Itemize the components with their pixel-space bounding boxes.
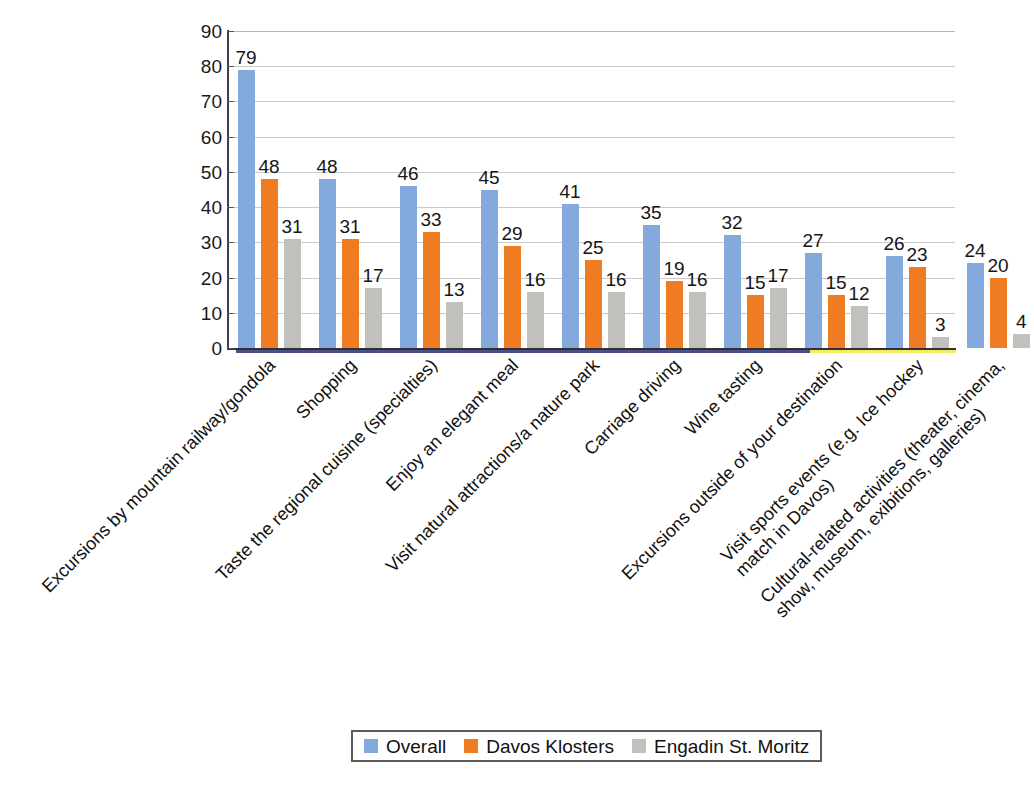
y-axis-tick-mark bbox=[227, 278, 234, 279]
y-axis-tick-mark bbox=[227, 207, 234, 208]
bar-value-label: 26 bbox=[884, 234, 905, 253]
bar-value-label: 35 bbox=[641, 203, 662, 222]
bar-value-label: 13 bbox=[444, 280, 465, 299]
y-axis-tick-mark bbox=[227, 101, 234, 102]
bar[interactable] bbox=[724, 235, 741, 348]
y-axis-tick-mark bbox=[227, 66, 234, 67]
bar-value-label: 46 bbox=[398, 164, 419, 183]
bar[interactable] bbox=[400, 186, 417, 348]
bar[interactable] bbox=[747, 295, 764, 348]
bar[interactable] bbox=[585, 260, 602, 348]
y-axis-tick-label: 0 bbox=[188, 339, 222, 358]
bar[interactable] bbox=[342, 239, 359, 348]
bar-group bbox=[716, 31, 797, 348]
y-axis-tick-mark bbox=[227, 348, 234, 349]
bar-value-label: 4 bbox=[1016, 312, 1027, 331]
bar-value-label: 25 bbox=[583, 238, 604, 257]
y-axis-tick-label: 40 bbox=[188, 198, 222, 217]
y-axis-tick-label: 70 bbox=[188, 92, 222, 111]
bar-group bbox=[959, 31, 1034, 348]
bar[interactable] bbox=[990, 278, 1007, 348]
bar-value-label: 15 bbox=[826, 273, 847, 292]
bar-value-label: 16 bbox=[525, 270, 546, 289]
bar-value-label: 16 bbox=[606, 270, 627, 289]
bar[interactable] bbox=[261, 179, 278, 348]
legend-label: Engadin St. Moritz bbox=[654, 737, 809, 756]
bar[interactable] bbox=[770, 288, 787, 348]
bar[interactable] bbox=[805, 253, 822, 348]
bar[interactable] bbox=[828, 295, 845, 348]
y-axis-tick-label: 20 bbox=[188, 268, 222, 287]
chart-legend: OverallDavos KlostersEngadin St. Moritz bbox=[351, 730, 822, 762]
bar-value-label: 15 bbox=[745, 273, 766, 292]
bar-value-label: 32 bbox=[722, 213, 743, 232]
bar-value-label: 33 bbox=[421, 210, 442, 229]
bar-value-label: 31 bbox=[282, 217, 303, 236]
bar-value-label: 20 bbox=[988, 256, 1009, 275]
bar[interactable] bbox=[504, 246, 521, 348]
bar-value-label: 48 bbox=[317, 157, 338, 176]
bar[interactable] bbox=[851, 306, 868, 348]
bar[interactable] bbox=[1013, 334, 1030, 348]
x-axis-category-label: Shopping bbox=[292, 355, 361, 424]
y-axis-tick-mark bbox=[227, 242, 234, 243]
bar[interactable] bbox=[886, 256, 903, 348]
bar-group bbox=[635, 31, 716, 348]
y-axis-tick-label: 50 bbox=[188, 162, 222, 181]
bar-value-label: 79 bbox=[236, 48, 257, 67]
scan-artifact-navy-line bbox=[236, 350, 814, 353]
y-axis-tick-label: 80 bbox=[188, 57, 222, 76]
bar-value-label: 12 bbox=[849, 284, 870, 303]
bar[interactable] bbox=[666, 281, 683, 348]
bar[interactable] bbox=[365, 288, 382, 348]
bar-value-label: 48 bbox=[259, 157, 280, 176]
y-axis-tick-label: 60 bbox=[188, 127, 222, 146]
y-axis-tick-mark bbox=[227, 313, 234, 314]
bar-value-label: 16 bbox=[687, 270, 708, 289]
bar-group bbox=[392, 31, 473, 348]
bar-value-label: 45 bbox=[479, 168, 500, 187]
legend-label: Davos Klosters bbox=[486, 737, 614, 756]
x-axis-category-label: Enjoy an elegant meal bbox=[382, 355, 523, 496]
legend-item[interactable]: Overall bbox=[364, 737, 446, 756]
bar-group bbox=[878, 31, 959, 348]
bar[interactable] bbox=[562, 204, 579, 348]
y-axis-tick-labels: 9080706050403020100 bbox=[182, 31, 222, 348]
bar[interactable] bbox=[967, 263, 984, 348]
legend-swatch-icon bbox=[632, 739, 646, 753]
bar-value-label: 3 bbox=[935, 315, 946, 334]
y-axis-tick-label: 30 bbox=[188, 233, 222, 252]
bar[interactable] bbox=[909, 267, 926, 348]
legend-item[interactable]: Engadin St. Moritz bbox=[632, 737, 809, 756]
bar-value-label: 24 bbox=[965, 241, 986, 260]
y-axis-tick-mark bbox=[227, 137, 234, 138]
bar[interactable] bbox=[481, 190, 498, 349]
bar-value-label: 23 bbox=[907, 245, 928, 264]
bar-value-label: 17 bbox=[363, 266, 384, 285]
scan-artifact-yellow-line bbox=[810, 350, 956, 353]
bar[interactable] bbox=[527, 292, 544, 348]
bar-value-label: 29 bbox=[502, 224, 523, 243]
bar[interactable] bbox=[319, 179, 336, 348]
bar[interactable] bbox=[284, 239, 301, 348]
y-axis-tick-mark bbox=[227, 31, 234, 32]
bar[interactable] bbox=[423, 232, 440, 348]
legend-swatch-icon bbox=[464, 739, 478, 753]
bar[interactable] bbox=[238, 70, 255, 348]
bar[interactable] bbox=[446, 302, 463, 348]
plot-area: 7948314831174633134529164125163519163215… bbox=[228, 31, 955, 348]
bar[interactable] bbox=[608, 292, 625, 348]
bar-group bbox=[473, 31, 554, 348]
bar-value-label: 27 bbox=[803, 231, 824, 250]
bar-value-label: 31 bbox=[340, 217, 361, 236]
bar-group bbox=[311, 31, 392, 348]
legend-item[interactable]: Davos Klosters bbox=[464, 737, 614, 756]
bar[interactable] bbox=[932, 337, 949, 348]
legend-swatch-icon bbox=[364, 739, 378, 753]
bar[interactable] bbox=[643, 225, 660, 348]
bar[interactable] bbox=[689, 292, 706, 348]
legend-label: Overall bbox=[386, 737, 446, 756]
bar-value-label: 41 bbox=[560, 182, 581, 201]
bar-group bbox=[230, 31, 311, 348]
